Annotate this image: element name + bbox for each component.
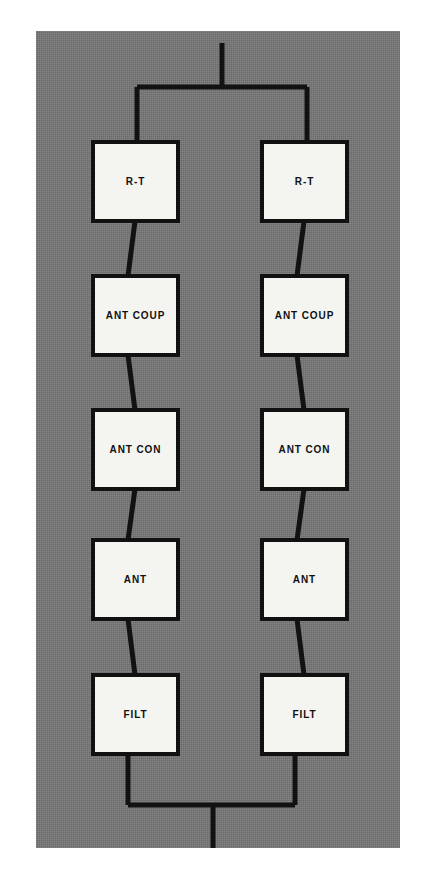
block-right-ant-con: ANT CON (262, 410, 347, 489)
block-left-ant: ANT (93, 540, 178, 619)
block-right-ant-coup: ANT COUP (262, 276, 347, 355)
connector-left-ant-to-filt (128, 619, 135, 675)
block-label-left-filt: FILT (124, 709, 148, 720)
block-label-left-ant-coup: ANT COUP (106, 310, 165, 321)
block-label-right-ant: ANT (293, 574, 316, 585)
block-label-right-ant-coup: ANT COUP (275, 310, 334, 321)
connector-right-ant-to-filt (297, 619, 304, 675)
block-label-right-filt: FILT (293, 709, 317, 720)
diagram-canvas: R-TANT COUPANT CONANTFILTR-TANT COUPANT … (0, 0, 426, 869)
top-bus-path (137, 43, 307, 142)
connector-right-rt-to-ant-coup (297, 221, 304, 276)
block-label-left-rt: R-T (126, 176, 145, 187)
connector-right-ant-coup-to-ant-con (297, 355, 304, 410)
top-bus (137, 43, 307, 142)
block-left-filt: FILT (93, 675, 178, 754)
connector-right-ant-con-to-ant (297, 489, 304, 540)
connector-left-ant-con-to-ant (128, 489, 135, 540)
bottom-bus (128, 754, 295, 848)
block-right-ant: ANT (262, 540, 347, 619)
block-right-rt: R-T (262, 142, 347, 221)
block-diagram-figure: R-TANT COUPANT CONANTFILTR-TANT COUPANT … (0, 0, 426, 869)
connector-left-ant-coup-to-ant-con (128, 355, 135, 410)
bottom-bus-path (128, 754, 295, 848)
block-right-filt: FILT (262, 675, 347, 754)
block-label-right-rt: R-T (295, 176, 314, 187)
connector-left-rt-to-ant-coup (128, 221, 135, 276)
block-left-rt: R-T (93, 142, 178, 221)
block-label-right-ant-con: ANT CON (279, 444, 331, 455)
block-label-left-ant: ANT (124, 574, 147, 585)
block-left-ant-con: ANT CON (93, 410, 178, 489)
block-left-ant-coup: ANT COUP (93, 276, 178, 355)
block-label-left-ant-con: ANT CON (110, 444, 162, 455)
